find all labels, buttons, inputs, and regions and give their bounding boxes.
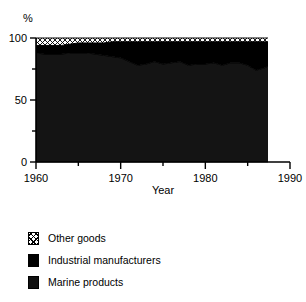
x-axis-tick-labels: 1960197019801990: [24, 172, 302, 184]
x-axis-title: Year: [152, 184, 175, 196]
x-axis-ticks: [36, 162, 290, 169]
chart-container: 050100 1960197019801990 % Year Other goo…: [0, 0, 306, 302]
legend-item-marine-products: Marine products: [28, 272, 278, 292]
solid-black-swatch: [28, 254, 39, 267]
legend-item-industrial-manufacturers: Industrial manufacturers: [28, 250, 278, 270]
x-tick-label: 1970: [108, 172, 132, 184]
legend-label: Industrial manufacturers: [48, 254, 161, 267]
y-axis-tick-labels: 050100: [9, 32, 27, 168]
y-axis-ticks: [30, 38, 36, 162]
area-series-group: [36, 38, 273, 162]
dark-gray-swatch: [28, 276, 39, 289]
x-tick-label: 1990: [278, 172, 302, 184]
legend-item-other-goods: Other goods: [28, 228, 278, 248]
legend-label: Marine products: [48, 276, 123, 289]
y-tick-label: 0: [21, 156, 27, 168]
crosshatch-swatch: [28, 232, 39, 245]
y-tick-label: 100: [9, 32, 27, 44]
y-tick-label: 50: [15, 94, 27, 106]
legend-label: Other goods: [48, 232, 106, 245]
area-marine-products: [36, 53, 273, 162]
chart-legend: Other goods Industrial manufacturers Mar…: [28, 228, 278, 294]
x-tick-label: 1980: [193, 172, 217, 184]
x-tick-label: 1960: [24, 172, 48, 184]
y-axis-title: %: [23, 12, 33, 24]
